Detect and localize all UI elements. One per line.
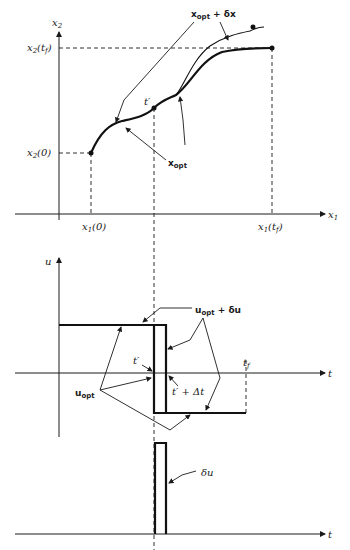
- t-prime-label: t′: [144, 96, 151, 107]
- x-opt-label: xopt: [168, 158, 188, 170]
- control-plot: u t tf t′ t′ + Δt uopt uopt + δu: [15, 256, 333, 437]
- end-point-opt: [270, 46, 275, 51]
- x1-tf-tick-label: x1(tf): [258, 221, 283, 234]
- t-prime-label-middle: t′: [133, 355, 140, 366]
- u-opt-plus-du-label: uopt + δu: [195, 305, 241, 317]
- t-prime-point: [152, 106, 157, 111]
- x1-axis-label: x1: [328, 209, 338, 222]
- x2-tf-tick-label: x2(tf): [27, 42, 52, 55]
- tf-label: tf: [243, 357, 251, 370]
- x1-0-tick-label: x1(0): [82, 221, 106, 234]
- perturbed-u-pointer-1: [143, 308, 192, 322]
- du-pulse: [155, 443, 166, 534]
- x2-axis-label: x2: [52, 17, 63, 30]
- t-prime-dt-pointer: [169, 376, 178, 386]
- x-opt-pointer-1: [126, 128, 166, 160]
- start-point: [89, 151, 94, 156]
- u-opt-pointer-2: [100, 378, 151, 390]
- t-axis-label-bottom: t: [328, 529, 333, 540]
- x2-0-tick-label: x2(0): [27, 147, 51, 160]
- end-point-perturbed: [251, 25, 256, 30]
- t-axis-label-middle: t: [328, 368, 333, 379]
- t-prime-pointer: [142, 365, 152, 371]
- u-axis-label: u: [45, 256, 51, 267]
- u-opt-plus-du-line: [154, 325, 166, 413]
- perturbed-pointer-2: [220, 22, 228, 40]
- x-opt-pointer-2: [180, 97, 185, 145]
- u-opt-pointer-1: [100, 327, 121, 390]
- du-label: δu: [201, 467, 213, 478]
- du-pointer: [169, 471, 196, 483]
- x-opt-plus-dx-label: xopt + δx: [191, 9, 236, 21]
- t-prime-dt-label: t′ + Δt: [172, 386, 205, 397]
- state-plot: x2 x1 x2(tf) x2(0) x1(0) x1(tf) t′ xopt …: [15, 9, 338, 550]
- x-opt-curve: [91, 48, 272, 153]
- x-opt-plus-dx-curve: [176, 27, 264, 95]
- perturbation-plot: t δu: [15, 443, 333, 540]
- optimal-control-variation-diagram: x2 x1 x2(tf) x2(0) x1(0) x1(tf) t′ xopt …: [0, 0, 350, 550]
- perturbed-u-pointer-3: [203, 318, 220, 410]
- perturbed-u-pointer-2: [168, 318, 203, 349]
- u-opt-label: uopt: [75, 388, 95, 400]
